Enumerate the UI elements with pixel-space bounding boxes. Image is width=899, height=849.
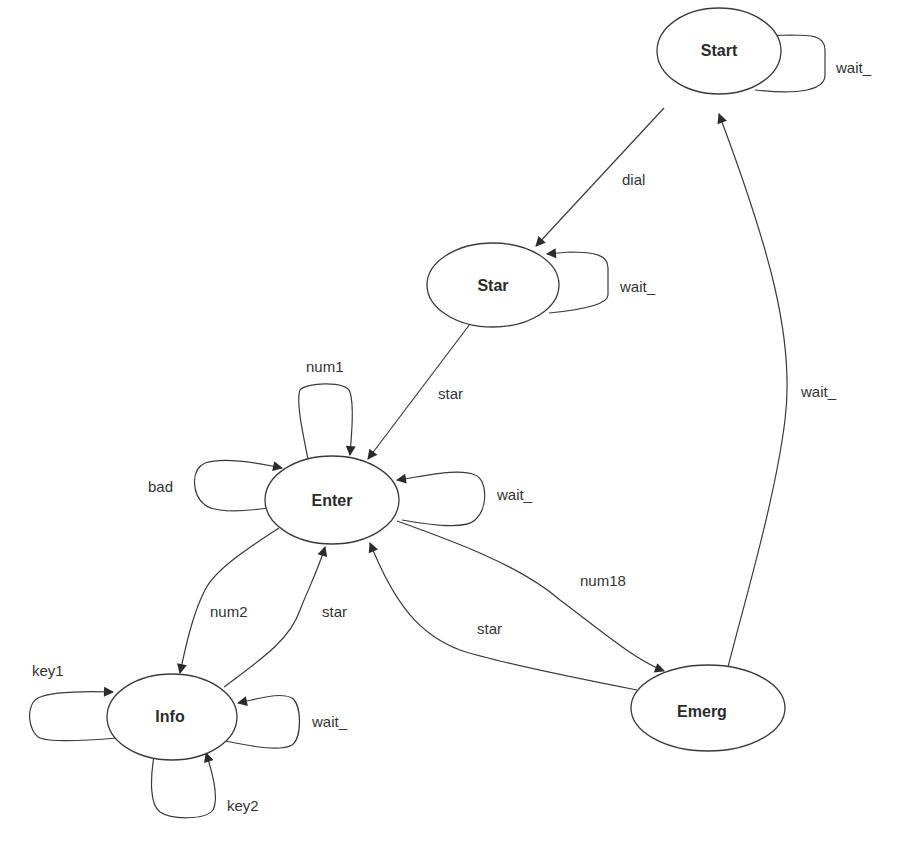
edge-enter-bad-self: bad bbox=[148, 460, 282, 510]
edge-label: key1 bbox=[32, 662, 64, 679]
state-node-emerg[interactable]: Emerg bbox=[631, 665, 785, 751]
edge-info-wait-self: wait_ bbox=[225, 695, 348, 748]
state-node-info[interactable]: Info bbox=[107, 674, 237, 760]
edge-label: key2 bbox=[227, 797, 259, 814]
edge-label: wait_ bbox=[311, 713, 348, 730]
edge-label: star bbox=[322, 603, 347, 620]
edge-label: wait_ bbox=[835, 59, 872, 76]
edge-star-to-enter-star: star bbox=[368, 324, 470, 459]
edge-label: wait_ bbox=[800, 383, 837, 400]
edge-label: star bbox=[477, 620, 502, 637]
node-label: Info bbox=[155, 708, 185, 725]
edge-label: num1 bbox=[306, 358, 344, 375]
edge-enter-to-info-num2: num2 bbox=[180, 528, 279, 673]
state-diagram: wait_ dial wait_ star num1 bad wait_ num… bbox=[0, 0, 899, 849]
state-node-star[interactable]: Star bbox=[427, 243, 559, 327]
edge-label: wait_ bbox=[619, 278, 656, 295]
node-label: Emerg bbox=[677, 703, 727, 720]
edge-start-to-star-dial: dial bbox=[536, 108, 664, 246]
edge-enter-to-emerg-num18: num18 bbox=[397, 521, 664, 671]
edge-info-key2-self: key2 bbox=[152, 753, 259, 818]
edge-emerg-to-enter-star: star bbox=[370, 543, 637, 690]
edge-info-key1-self: key1 bbox=[30, 662, 117, 741]
edge-label: star bbox=[438, 385, 463, 402]
edge-label: wait_ bbox=[496, 486, 533, 503]
node-label: Enter bbox=[312, 492, 353, 509]
edge-label: num18 bbox=[580, 572, 626, 589]
edge-label: bad bbox=[148, 478, 173, 495]
state-node-enter[interactable]: Enter bbox=[265, 456, 399, 544]
edge-label: dial bbox=[622, 171, 645, 188]
node-label: Star bbox=[477, 277, 508, 294]
edge-label: num2 bbox=[210, 603, 248, 620]
edge-enter-num1-self: num1 bbox=[299, 358, 353, 459]
edge-star-wait-self: wait_ bbox=[547, 252, 656, 313]
state-node-start[interactable]: Start bbox=[657, 8, 781, 94]
edge-enter-wait-self: wait_ bbox=[397, 472, 533, 526]
edge-emerg-to-start-wait: wait_ bbox=[719, 114, 837, 667]
node-label: Start bbox=[701, 42, 738, 59]
